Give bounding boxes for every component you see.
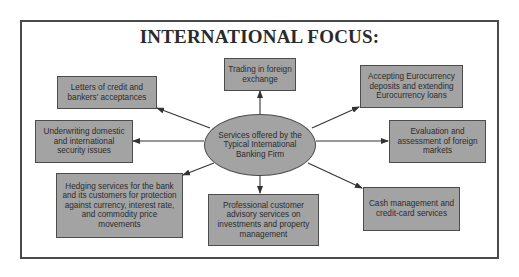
center-label: Services offered by the Typical Internat…: [213, 131, 307, 160]
service-label: Hedging services for the bank and its cu…: [60, 182, 179, 230]
service-box-advisory: Professional customer advisory services …: [208, 194, 319, 246]
service-box-hedging: Hedging services for the bank and its cu…: [56, 173, 183, 238]
service-label: Professional customer advisory services …: [212, 201, 315, 239]
service-box-evaluation: Evaluation and assessment of foreign mar…: [389, 120, 486, 163]
service-box-cash-management: Cash management and credit-card services: [363, 187, 460, 231]
arrow-to-hedging: [183, 163, 214, 175]
arrow-to-eurocurrency: [312, 107, 359, 128]
service-box-letters-of-credit: Letters of credit and bankers' acceptanc…: [57, 76, 157, 109]
service-label: Accepting Eurocurrency deposits and exte…: [364, 72, 459, 101]
center-ellipse: Services offered by the Typical Internat…: [204, 114, 316, 176]
service-label: Trading in foreign exchange: [228, 65, 292, 84]
service-box-foreign-exchange: Trading in foreign exchange: [224, 58, 296, 91]
service-label: Cash management and credit-card services: [367, 199, 456, 218]
arrow-to-letters-of-credit: [157, 108, 210, 128]
service-label: Underwriting domestic and international …: [39, 127, 129, 156]
service-box-underwriting: Underwriting domestic and international …: [35, 120, 133, 163]
service-label: Evaluation and assessment of foreign mar…: [393, 127, 482, 156]
arrow-to-cash-management: [308, 163, 362, 188]
service-label: Letters of credit and bankers' acceptanc…: [61, 83, 153, 102]
service-box-eurocurrency: Accepting Eurocurrency deposits and exte…: [360, 65, 463, 108]
